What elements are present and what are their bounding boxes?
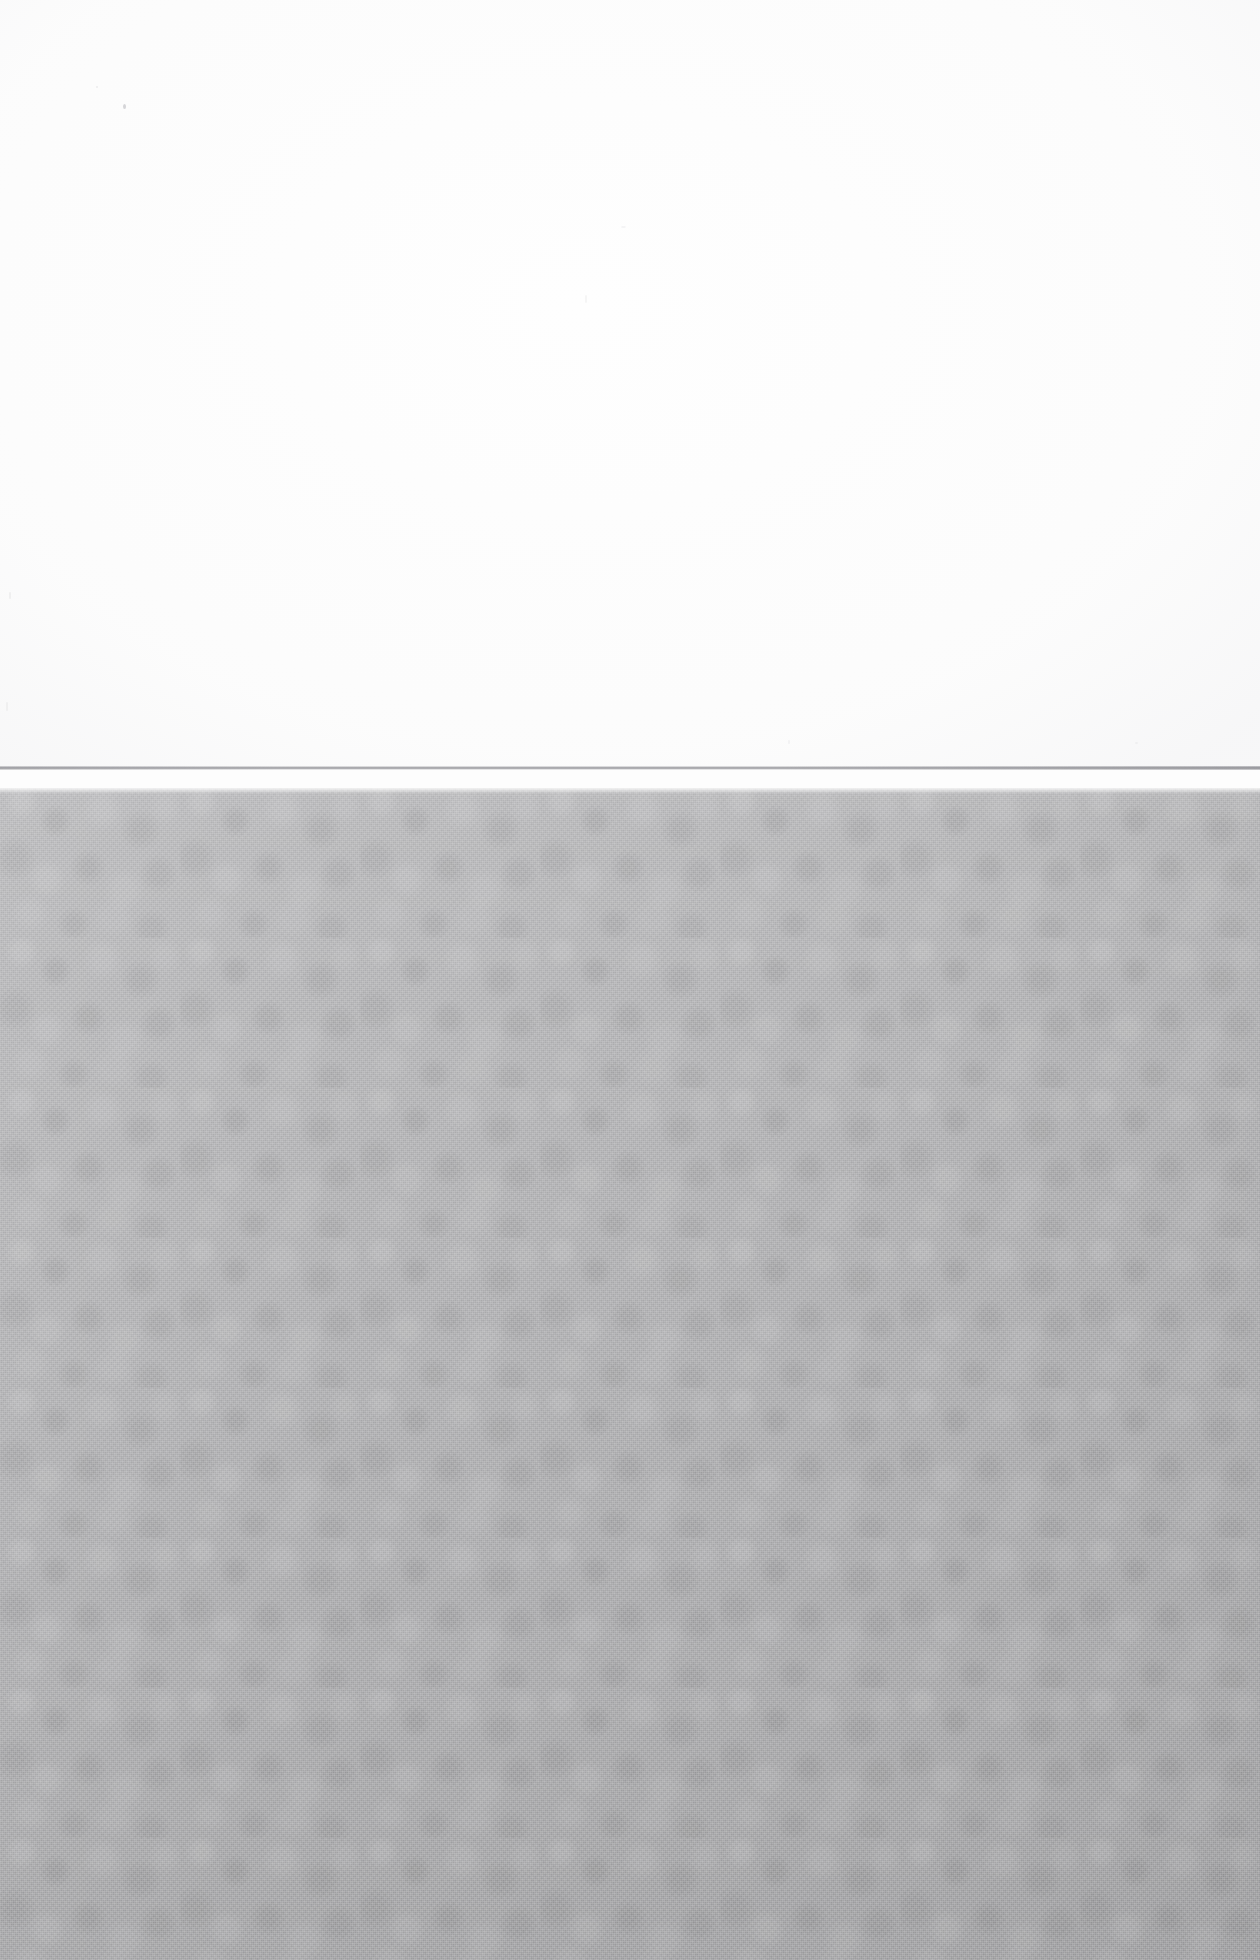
dust-speck-icon [6,702,8,711]
dust-speck-icon [96,86,98,88]
gray-top-edge [0,788,1260,798]
dust-speck-icon [788,740,790,744]
dust-speck-icon [9,592,11,599]
dust-speck-icon [123,104,126,109]
scanned-surface-page [0,0,1260,1960]
white-paper-area [0,0,1260,767]
dust-speck-icon [1135,742,1138,744]
gray-textured-area [0,788,1260,1960]
white-gap [0,770,1260,788]
gray-tone-gradient [0,788,1260,1960]
dust-speck-icon [585,295,587,303]
dust-speck-icon [621,226,626,228]
